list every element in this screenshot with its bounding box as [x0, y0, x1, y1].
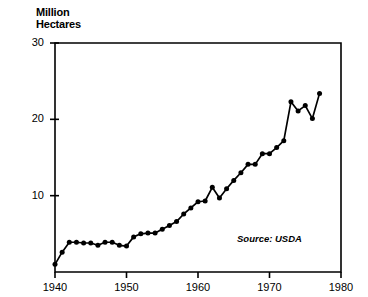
data-point-marker — [288, 99, 293, 104]
data-point-marker — [310, 116, 315, 121]
data-point-marker — [160, 227, 165, 232]
y-axis-tick-label: 10 — [18, 189, 44, 201]
x-axis-tick-label: 1950 — [107, 281, 147, 293]
data-point-marker — [317, 91, 322, 96]
x-axis-tick-label: 1980 — [321, 281, 361, 293]
data-point-marker — [67, 240, 72, 245]
source-annotation: Source: USDA — [237, 233, 302, 244]
y-axis-tick-label: 30 — [18, 36, 44, 48]
data-point-marker — [217, 195, 222, 200]
chart-axis-title: Million Hectares — [36, 6, 81, 30]
data-point-marker — [124, 244, 129, 249]
y-axis-tick-label: 20 — [18, 112, 44, 124]
data-point-marker — [203, 199, 208, 204]
data-point-marker — [174, 219, 179, 224]
x-axis-tick-label: 1960 — [178, 281, 218, 293]
data-point-marker — [53, 262, 58, 267]
data-point-marker — [153, 231, 158, 236]
data-point-marker — [103, 240, 108, 245]
x-axis-tick-label: 1940 — [35, 281, 75, 293]
data-point-marker — [110, 240, 115, 245]
data-point-marker — [60, 250, 65, 255]
data-point-marker — [74, 240, 79, 245]
data-point-marker — [210, 185, 215, 190]
data-point-marker — [88, 240, 93, 245]
chart-figure: Million Hectares 102030 1940195019601970… — [0, 0, 368, 297]
data-point-marker — [167, 223, 172, 228]
data-point-marker — [296, 108, 301, 113]
data-point-marker — [131, 234, 136, 239]
data-point-marker — [238, 170, 243, 175]
chart-plot-area — [0, 0, 368, 297]
data-point-marker — [81, 240, 86, 245]
data-point-marker — [138, 231, 143, 236]
data-point-marker — [117, 243, 122, 248]
data-point-marker — [303, 103, 308, 108]
data-point-marker — [281, 138, 286, 143]
data-point-marker — [196, 199, 201, 204]
data-point-marker — [260, 151, 265, 156]
data-point-marker — [246, 162, 251, 167]
data-point-marker — [224, 186, 229, 191]
data-point-marker — [188, 205, 193, 210]
x-axis-tick-label: 1970 — [250, 281, 290, 293]
data-point-marker — [95, 243, 100, 248]
data-point-marker — [274, 145, 279, 150]
data-point-marker — [231, 178, 236, 183]
data-point-marker — [267, 151, 272, 156]
data-point-marker — [253, 162, 258, 167]
data-point-marker — [181, 211, 186, 216]
data-point-marker — [145, 231, 150, 236]
